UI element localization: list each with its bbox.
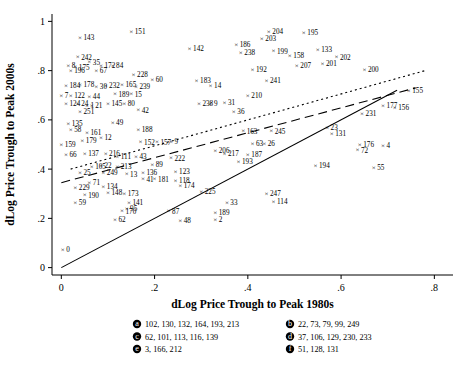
- data-point: ×42: [136, 106, 149, 114]
- point-label: 193: [242, 158, 253, 166]
- legend-item: a102, 130, 132, 164, 193, 213: [133, 319, 239, 329]
- point-label: 190: [88, 192, 99, 200]
- data-point: ×151: [129, 28, 146, 36]
- data-point: ×114: [272, 198, 288, 206]
- point-label: 133: [321, 46, 332, 54]
- data-point: ×59: [73, 199, 86, 207]
- point-label: 72: [361, 147, 369, 155]
- point-label: 187: [251, 151, 262, 159]
- point-label: 84: [116, 62, 124, 70]
- x-tick-label: .8: [431, 282, 439, 293]
- point-label: 156: [398, 104, 409, 112]
- y-tick-label: .8: [38, 65, 46, 76]
- data-point: ×31: [223, 99, 236, 107]
- point-marker-x-icon: ×: [223, 99, 227, 107]
- point-marker-x-icon: ×: [99, 134, 103, 142]
- point-marker-x-icon: ×: [381, 102, 385, 110]
- data-point: ×145: [106, 100, 123, 108]
- data-point: ×0: [61, 246, 70, 254]
- data-point: ×49: [111, 119, 124, 127]
- data-point: ×142: [188, 45, 205, 53]
- data-point: ×9: [209, 100, 218, 108]
- point-marker-x-icon: ×: [122, 190, 126, 198]
- point-marker-x-icon: ×: [360, 110, 364, 118]
- point-label: 179: [86, 137, 97, 145]
- point-label: 152: [144, 139, 155, 147]
- point-label: 9: [214, 100, 218, 108]
- point-label: 174: [184, 182, 195, 190]
- point-marker-x-icon: ×: [355, 146, 359, 154]
- data-point: ×67: [94, 67, 107, 75]
- legend-label: 102, 130, 132, 164, 193, 213: [145, 320, 239, 329]
- point-marker-x-icon: ×: [120, 81, 124, 89]
- data-point: ×122: [69, 92, 86, 100]
- legend-marker-letter: b: [288, 319, 292, 328]
- point-label: 80: [128, 100, 136, 108]
- point-marker-x-icon: ×: [407, 87, 411, 95]
- point-marker-x-icon: ×: [225, 199, 229, 207]
- point-label: 194: [319, 162, 330, 170]
- point-label: 200: [368, 66, 379, 74]
- data-point: ×12: [99, 134, 112, 142]
- point-marker-x-icon: ×: [134, 153, 138, 161]
- point-label: 25: [83, 169, 91, 177]
- data-point: ×33: [225, 199, 238, 207]
- point-label: 33: [230, 199, 238, 207]
- point-marker-x-icon: ×: [178, 217, 182, 225]
- point-marker-x-icon: ×: [136, 106, 140, 114]
- data-point: ×58: [69, 126, 82, 134]
- data-point: ×196: [69, 67, 86, 75]
- data-point: ×7: [59, 92, 68, 100]
- data-point: ×66: [64, 151, 77, 159]
- data-point: ×123: [174, 168, 191, 176]
- point-marker-x-icon: ×: [141, 175, 145, 183]
- data-point: ×231: [360, 110, 377, 118]
- point-label: 159: [65, 141, 76, 149]
- point-label: 137: [88, 150, 99, 158]
- point-label: 148: [111, 189, 122, 197]
- data-point: ×207: [295, 62, 312, 70]
- point-marker-x-icon: ×: [69, 67, 73, 75]
- point-label: 201: [326, 60, 337, 68]
- point-label: 48: [184, 217, 192, 225]
- point-marker-x-icon: ×: [197, 100, 201, 108]
- data-point: ×210: [246, 92, 263, 100]
- point-marker-x-icon: ×: [125, 170, 129, 178]
- point-label: 12: [104, 134, 112, 142]
- point-marker-x-icon: ×: [237, 158, 241, 166]
- data-point: ×203: [260, 35, 277, 43]
- point-marker-x-icon: ×: [78, 169, 82, 177]
- data-point: ×193: [237, 158, 254, 166]
- point-label: 238: [244, 49, 255, 57]
- point-marker-x-icon: ×: [239, 49, 243, 57]
- legend-label: 3, 166, 212: [145, 345, 182, 354]
- point-label: 222: [174, 155, 185, 163]
- data-point: ×55: [372, 164, 385, 172]
- point-marker-x-icon: ×: [155, 138, 159, 146]
- data-point: ×111: [115, 153, 131, 161]
- data-point: ×14: [209, 82, 222, 90]
- point-label: 14: [214, 82, 222, 90]
- data-point: ×43: [134, 153, 147, 161]
- point-label: 231: [366, 110, 377, 118]
- y-axis-title: dLog Price Trough to Peak 2000s: [4, 63, 17, 226]
- data-point: ×201: [320, 60, 337, 68]
- point-label: 155: [412, 87, 423, 95]
- point-marker-x-icon: ×: [113, 216, 117, 224]
- y-tick-label: .6: [38, 114, 46, 125]
- data-point: ×84: [111, 62, 124, 70]
- data-point: ×200: [362, 66, 379, 74]
- data-point: ×72: [355, 146, 368, 154]
- data-point: ×2: [213, 216, 222, 224]
- data-point: ×238: [239, 49, 256, 57]
- point-marker-x-icon: ×: [288, 52, 292, 60]
- point-marker-x-icon: ×: [209, 100, 213, 108]
- data-point: ×199: [272, 47, 289, 55]
- point-label: 0: [66, 246, 70, 254]
- point-marker-x-icon: ×: [251, 66, 255, 74]
- point-label: 195: [307, 29, 318, 37]
- point-label: 241: [270, 77, 281, 85]
- point-marker-x-icon: ×: [76, 53, 80, 61]
- point-marker-x-icon: ×: [111, 119, 115, 127]
- point-label: 203: [265, 35, 276, 43]
